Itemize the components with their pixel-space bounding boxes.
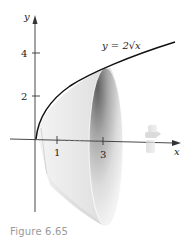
solid-of-revolution-figure: y 4 2 1 3 x y = 2√x Figure 6.65 <box>0 0 192 244</box>
y-axis-label: y <box>23 11 30 22</box>
solid-body <box>37 68 123 226</box>
rotation-arrow-icon <box>145 125 161 153</box>
x-tick-3: 3 <box>100 149 106 160</box>
y-axis <box>32 15 40 212</box>
x-axis-label: x <box>174 146 180 157</box>
y-tick-2: 2 <box>21 91 27 102</box>
figure-caption: Figure 6.65 <box>10 226 68 237</box>
y-tick-4: 4 <box>21 48 27 59</box>
curve-label: y = 2√x <box>101 40 141 51</box>
x-tick-1: 1 <box>54 147 60 158</box>
